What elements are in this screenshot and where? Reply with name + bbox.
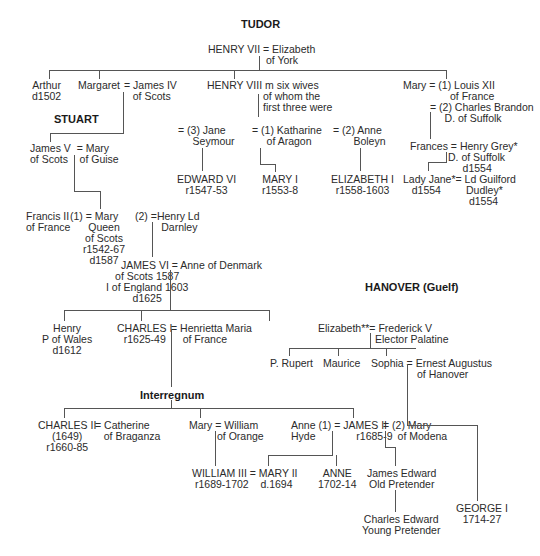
connector — [258, 94, 259, 117]
heading-interregnum: Interregnum — [140, 390, 204, 401]
connector — [430, 112, 431, 139]
person-anne-queen: ANNE 1702-14 — [318, 468, 357, 490]
connector — [446, 152, 447, 163]
person-henry-vii: HENRY VII = Elizabeth — [208, 44, 315, 55]
person-james-edward: James Edward Old Pretender — [367, 468, 436, 490]
connector — [49, 70, 446, 71]
connector — [64, 310, 65, 321]
person-mary-ii: r1689-1702 d.1694 — [195, 479, 293, 490]
connector — [332, 431, 333, 455]
connector — [200, 408, 201, 418]
connector — [275, 164, 276, 172]
connector — [123, 92, 124, 133]
connector — [171, 329, 172, 387]
person-charles-ii: CHARLES II (1649) r1660-85 — [38, 420, 96, 453]
connector — [428, 162, 446, 163]
connector — [152, 222, 153, 257]
person-frederick-v: Elector Palatine — [375, 334, 449, 345]
person-elizabeth-york: of York — [266, 55, 298, 66]
connector — [100, 191, 101, 209]
heading-tudor: TUDOR — [241, 19, 280, 30]
connector — [170, 270, 171, 310]
connector — [268, 455, 269, 466]
connector — [215, 431, 216, 466]
mary-qos-detail: Queen of Scots r1542-67 d1587 — [83, 222, 125, 266]
connector — [395, 490, 396, 512]
connector — [234, 70, 235, 79]
connector — [386, 348, 387, 356]
person-jane-seymour: = (3) Jane Seymour — [178, 125, 235, 147]
person-charles-brandon: = (2) Charles Brandon D. of Suffolk — [430, 102, 534, 124]
person-guilford-dudley: Dudley* d1554 — [466, 185, 503, 207]
person-francis-ii: Francis II of France — [26, 211, 70, 233]
person-anne-hyde: Hyde r1685-9 — [291, 431, 393, 442]
person-george-i: GEORGE I 1714-27 — [456, 503, 508, 525]
connector — [269, 310, 270, 321]
connector — [477, 425, 478, 501]
person-rupert: P. Rupert — [270, 358, 313, 369]
person-james-iv: = James IV of Scots — [124, 80, 177, 102]
connector — [407, 364, 408, 425]
person-darnley: (2) =Henry Ld Darnley — [135, 211, 200, 233]
person-mary-modena: = (2) Mary of Modena — [383, 420, 447, 442]
person-william-orange: of Orange — [217, 431, 264, 442]
henry-viii-note: of whom the first three were — [263, 91, 332, 113]
person-katharine-aragon: = (1) Katharine of Aragon — [252, 125, 322, 147]
person-arthur: Arthur d1502 — [32, 80, 61, 102]
connector — [289, 348, 416, 349]
connector — [268, 455, 333, 456]
person-maurice: Maurice — [323, 358, 360, 369]
connector — [428, 162, 429, 171]
person-catherine: = Catherine of Braganza — [95, 420, 160, 442]
connector — [171, 400, 172, 408]
connector — [360, 148, 361, 171]
person-ernest-augustus: of Hanover — [417, 369, 468, 380]
connector — [64, 408, 353, 409]
connector — [385, 447, 395, 448]
connector — [446, 70, 447, 79]
person-henry-pw: Henry P of Wales d1612 — [42, 323, 92, 356]
connector — [353, 408, 354, 418]
connector — [49, 70, 50, 79]
connector — [64, 408, 65, 418]
connector — [259, 56, 260, 70]
heading-hanover: HANOVER (Guelf) — [365, 282, 459, 293]
person-charles-edward: Charles Edward Young Pretender — [362, 514, 440, 536]
connector — [260, 148, 261, 164]
person-edward-vi: EDWARD VI r1547-53 — [177, 174, 236, 196]
james-vi-detail: of Scots 1587 I of England 1603 d1625 — [106, 271, 188, 304]
person-anne-boleyn: = (2) Anne Boleyn — [333, 125, 386, 147]
connector — [407, 425, 477, 426]
connector — [64, 310, 270, 311]
connector — [338, 348, 339, 356]
person-henrietta: = Henrietta Maria of France — [171, 323, 252, 345]
connector — [260, 164, 275, 165]
connector — [50, 133, 51, 142]
connector — [74, 191, 100, 192]
connector — [385, 431, 386, 447]
connector — [395, 447, 396, 466]
person-charles-i: CHARLES I r1625-49 — [117, 323, 172, 345]
connector — [50, 133, 124, 134]
connector — [370, 333, 371, 348]
person-elizabeth-i: ELIZABETH I r1558-1603 — [331, 174, 394, 196]
person-henry-grey: D. of Suffolk d1554 — [448, 152, 505, 174]
family-tree-diagram: TUDOR STUART Interregnum HANOVER (Guelf)… — [0, 0, 540, 556]
connector — [74, 155, 75, 191]
connector — [202, 148, 203, 171]
connector — [141, 310, 142, 321]
connector — [289, 348, 290, 356]
person-margaret: Margaret — [78, 80, 120, 91]
connector — [99, 70, 100, 79]
person-mary-i: MARY I r1553-8 — [262, 174, 298, 196]
heading-stuart: STUART — [54, 114, 99, 125]
connector — [336, 455, 337, 466]
